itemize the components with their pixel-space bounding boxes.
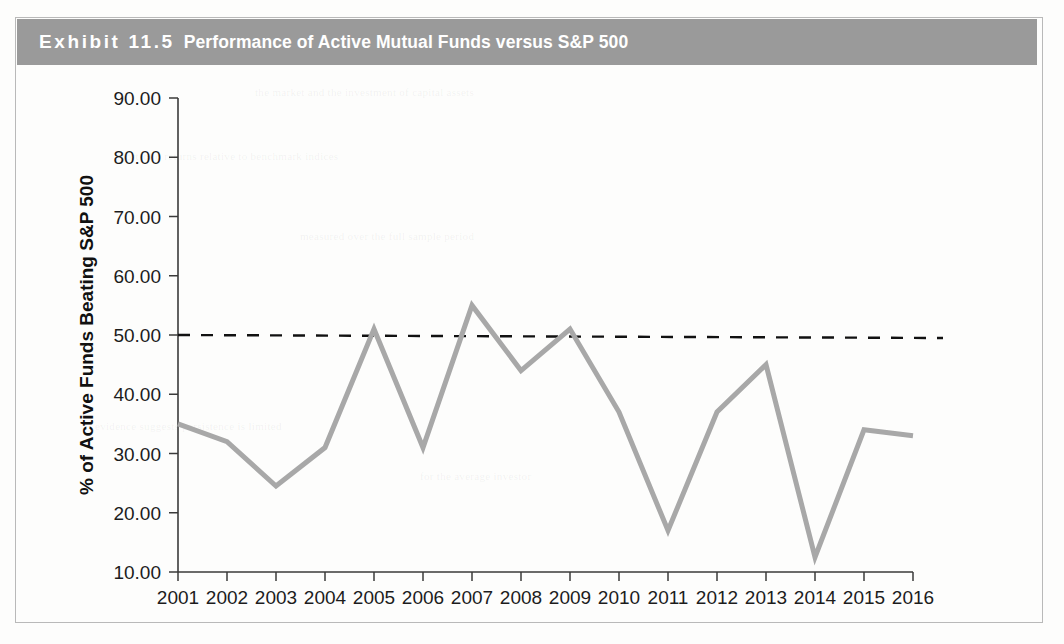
- y-axis-ticks: 90.0080.0070.0060.0050.0040.0030.0020.00…: [113, 88, 178, 583]
- x-tick-label: 2013: [745, 587, 787, 608]
- x-tick-label: 2010: [598, 587, 640, 608]
- exhibit-number-label: Exhibit 11.5: [39, 31, 175, 53]
- y-tick-label: 20.00: [113, 503, 161, 524]
- x-tick-label: 2016: [892, 587, 934, 608]
- y-tick-label: 80.00: [113, 147, 161, 168]
- y-axis-title: % of Active Funds Beating S&P 500: [76, 175, 97, 495]
- y-tick-label: 50.00: [113, 325, 161, 346]
- x-tick-label: 2011: [648, 587, 689, 608]
- x-tick-label: 2007: [451, 587, 493, 608]
- y-tick-label: 30.00: [113, 444, 161, 465]
- x-tick-label: 2002: [206, 587, 248, 608]
- x-tick-label: 2006: [402, 587, 444, 608]
- x-tick-label: 2008: [500, 587, 542, 608]
- x-tick-label: 2004: [304, 587, 347, 608]
- x-tick-label: 2009: [549, 587, 591, 608]
- y-tick-label: 60.00: [113, 266, 161, 287]
- x-tick-label: 2015: [843, 587, 885, 608]
- x-tick-label: 2001: [157, 587, 199, 608]
- x-tick-label: 2005: [353, 587, 395, 608]
- y-tick-label: 70.00: [113, 207, 161, 228]
- x-tick-label: 2012: [696, 587, 738, 608]
- x-tick-label: 2003: [255, 587, 297, 608]
- y-tick-label: 40.00: [113, 384, 161, 405]
- scanned-page: the market and the investment of capital…: [0, 0, 1064, 644]
- line-chart: 90.0080.0070.0060.0050.0040.0030.0020.00…: [15, 65, 1043, 623]
- series-line-active-funds: [178, 305, 913, 557]
- exhibit-title: Performance of Active Mutual Funds versu…: [184, 32, 629, 53]
- y-tick-label: 90.00: [113, 88, 161, 109]
- exhibit-header: Exhibit 11.5 Performance of Active Mutua…: [17, 19, 1037, 65]
- y-tick-label: 10.00: [113, 562, 161, 583]
- chart-region: 90.0080.0070.0060.0050.0040.0030.0020.00…: [15, 65, 1043, 623]
- x-axis-ticks: 2001200220032004200520062007200820092010…: [157, 572, 934, 608]
- x-tick-label: 2014: [794, 587, 837, 608]
